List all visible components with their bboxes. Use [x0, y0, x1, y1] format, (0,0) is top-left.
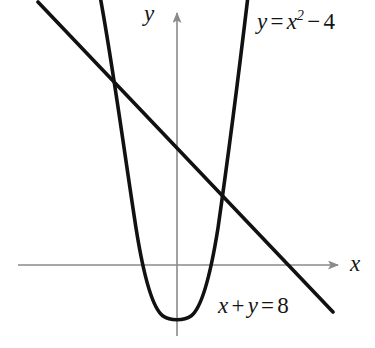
parabola-eq-lhs: y — [257, 9, 267, 34]
parabola-eq-constant: 4 — [323, 9, 335, 34]
y-axis-label: y — [144, 2, 154, 25]
parabola-eq-equals: = — [267, 9, 286, 34]
parabola-curve — [100, 0, 248, 320]
line-eq-plus: + — [228, 293, 247, 318]
x-axis-label: x — [350, 252, 360, 275]
line-eq-constant: 8 — [277, 293, 289, 318]
line-equation-label: x+y=8 — [218, 294, 289, 317]
line-eq-term2: y — [248, 293, 258, 318]
graph-figure: ) y x y=x2−4 x+y=8 — [0, 0, 375, 348]
line-eq-equals: = — [258, 293, 277, 318]
parabola-eq-exponent: 2 — [297, 7, 304, 23]
parabola-equation-label: y=x2−4 — [257, 10, 335, 33]
coordinate-plot — [0, 0, 375, 348]
parabola-eq-minus: − — [304, 9, 323, 34]
line-eq-term1: x — [218, 293, 228, 318]
parabola-eq-base: x — [287, 9, 297, 34]
